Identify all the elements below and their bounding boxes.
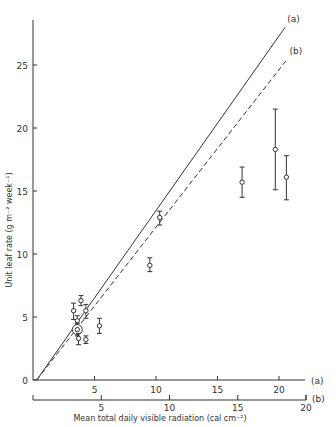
- data-point: [76, 333, 81, 344]
- x-tick-label-b: 15: [232, 403, 243, 413]
- data-point: [83, 304, 88, 318]
- data-point: [157, 211, 162, 225]
- data-point: [97, 318, 102, 333]
- y-axis-title: Unit leaf rate (g m⁻² week⁻¹): [5, 172, 14, 287]
- line-label: (b): [290, 46, 303, 56]
- chart: 05101520255101520(a)5101520(b)Mean total…: [0, 0, 336, 427]
- y-tick-label: 10: [17, 250, 29, 260]
- y-tick-label: 15: [17, 187, 28, 197]
- y-tick-label: 20: [17, 124, 29, 134]
- y-tick-label: 0: [22, 376, 28, 386]
- data-point: [83, 336, 88, 344]
- data-points: [71, 109, 289, 345]
- axis-labels: 05101520255101520(a)5101520(b)Mean total…: [5, 14, 325, 423]
- x-axis-b-label: (b): [312, 394, 325, 404]
- x-tick-label-b: 5: [98, 403, 104, 413]
- y-tick-label: 25: [17, 61, 28, 71]
- data-point: [284, 156, 289, 200]
- data-point: [72, 323, 82, 336]
- x-tick-label-a: 10: [150, 385, 162, 395]
- x-axis-a-label: (a): [311, 376, 324, 386]
- x-axis-title: Mean total daily visible radiation (cal …: [73, 414, 246, 423]
- x-tick-label-b: 20: [300, 403, 312, 413]
- axes: [33, 20, 306, 400]
- y-tick-label: 5: [22, 313, 28, 323]
- data-point: [147, 258, 152, 272]
- x-tick-label-a: 5: [92, 385, 98, 395]
- x-tick-label-b: 10: [164, 403, 176, 413]
- x-tick-label-a: 15: [212, 385, 223, 395]
- data-point: [240, 167, 245, 197]
- x-tick-label-a: 20: [273, 385, 285, 395]
- line-label: (a): [287, 14, 300, 24]
- data-point: [71, 303, 76, 319]
- data-point: [78, 296, 83, 306]
- data-point: [273, 109, 278, 190]
